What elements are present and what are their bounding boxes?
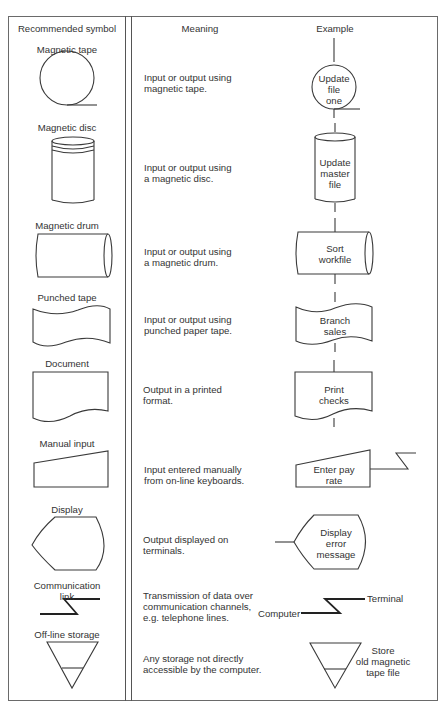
meaning-manual-input: Input entered manually from on-line keyb…	[144, 464, 244, 486]
meaning-magnetic-disc: Input or output using a magnetic disc.	[144, 162, 231, 184]
meaning-magnetic-tape: Input or output using magnetic tape.	[144, 72, 231, 94]
example-communication-link-terminal: Terminal	[367, 593, 403, 604]
display-symbol-icon	[32, 517, 104, 570]
example-punched-tape: Branch sales	[305, 315, 365, 337]
symbol-label-magnetic-drum: Magnetic drum	[10, 220, 124, 231]
example-magnetic-drum: Sort workfile	[305, 243, 365, 265]
meaning-magnetic-drum: Input or output using a magnetic drum.	[144, 246, 231, 268]
symbol-label-magnetic-tape: Magnetic tape	[10, 44, 124, 55]
meaning-offline-storage: Any storage not directly accessible by t…	[143, 653, 261, 675]
example-magnetic-disc: Update master file	[310, 157, 360, 190]
magnetic-tape-symbol-icon	[40, 51, 97, 105]
offline-storage-symbol-icon	[47, 642, 98, 688]
example-offline-storage: Store old magnetic tape file	[348, 645, 418, 678]
example-document: Print checks	[304, 384, 364, 406]
example-manual-input: Enter pay rate	[304, 464, 364, 486]
punched-tape-symbol-icon	[33, 306, 110, 346]
symbol-label-document: Document	[10, 358, 124, 369]
magnetic-disc-symbol-icon	[52, 137, 94, 203]
symbol-label-communication-link: Communication link	[10, 580, 124, 602]
magnetic-drum-symbol-icon	[36, 234, 112, 277]
meaning-communication-link: Transmission of data over communication …	[143, 590, 253, 623]
meaning-punched-tape: Input or output using punched paper tape…	[144, 314, 232, 336]
symbol-label-punched-tape: Punched tape	[10, 292, 124, 303]
example-communication-link-computer: Computer	[258, 608, 300, 619]
meaning-document: Output in a printed format.	[143, 384, 222, 406]
example-display: Display error message	[306, 527, 366, 560]
meaning-display: Output displayed on terminals.	[143, 534, 228, 556]
symbol-label-offline-storage: Off-line storage	[10, 629, 124, 640]
symbol-label-manual-input: Manual input	[10, 438, 124, 449]
document-symbol-icon	[33, 372, 108, 422]
symbol-label-display: Display	[10, 504, 124, 515]
example-magnetic-tape: Update file one	[309, 73, 359, 106]
manual-input-symbol-icon	[34, 451, 108, 487]
communication-link-example-icon	[301, 599, 365, 613]
symbol-label-magnetic-disc: Magnetic disc	[10, 122, 124, 133]
